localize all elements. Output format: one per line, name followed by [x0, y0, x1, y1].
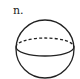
equator-front-solid-arc	[16, 47, 74, 56]
equator-back-dashed-arc	[16, 38, 74, 47]
sphere-outline	[16, 20, 74, 78]
sphere-figure	[0, 0, 80, 79]
